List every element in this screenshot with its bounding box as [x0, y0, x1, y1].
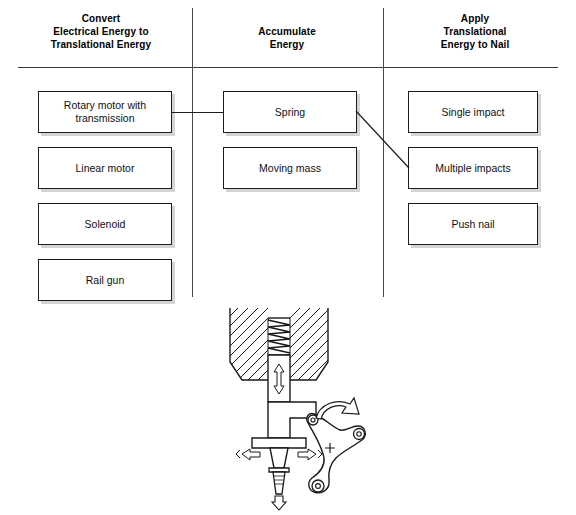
housing-hatched-block	[212, 306, 377, 396]
option-label: Rotary motor with transmission	[39, 99, 171, 125]
option-box-push-nail[interactable]: Push nail	[408, 203, 538, 245]
option-label: Moving mass	[259, 162, 321, 175]
option-box-moving-mass[interactable]: Moving mass	[223, 147, 357, 189]
option-box-single-impact[interactable]: Single impact	[408, 91, 538, 133]
nail	[269, 468, 289, 494]
column-header-apply-line-3: Energy to Nail	[392, 38, 558, 51]
column-header-apply-line-2: Translational	[392, 25, 558, 38]
column-header-convert-line-3: Translational Energy	[18, 38, 184, 51]
connector-spring-to-multiple-impacts	[355, 110, 411, 170]
column-header-accumulate-line-2: Energy	[203, 38, 371, 51]
option-box-spring[interactable]: Spring	[223, 91, 357, 133]
option-label: Single impact	[441, 106, 504, 119]
compression-spring	[268, 318, 290, 355]
column-divider-left	[192, 8, 193, 297]
header-separator-rule	[18, 67, 558, 68]
option-box-linear-motor[interactable]: Linear motor	[38, 147, 172, 189]
rotation-arrow-icon	[316, 398, 359, 419]
option-label: Spring	[275, 106, 305, 119]
option-box-rail-gun[interactable]: Rail gun	[38, 259, 172, 301]
option-box-multiple-impacts[interactable]: Multiple impacts	[408, 147, 538, 189]
column-header-accumulate: Accumulate Energy	[203, 25, 371, 51]
option-label: Solenoid	[85, 218, 126, 231]
option-label: Push nail	[451, 218, 494, 231]
column-header-convert-line-1: Convert	[18, 12, 184, 25]
column-header-apply: Apply Translational Energy to Nail	[392, 12, 558, 51]
option-label: Rail gun	[86, 274, 125, 287]
option-label: Multiple impacts	[435, 162, 510, 175]
column-header-apply-line-1: Apply	[392, 12, 558, 25]
option-label: Linear motor	[76, 162, 135, 175]
option-box-solenoid[interactable]: Solenoid	[38, 203, 172, 245]
option-box-rotary-motor[interactable]: Rotary motor with transmission	[38, 91, 172, 133]
connector-rotary-to-spring	[171, 112, 224, 113]
morphological-chart: Convert Electrical Energy to Translation…	[0, 0, 576, 515]
column-header-convert: Convert Electrical Energy to Translation…	[18, 12, 184, 51]
nail-drive-arrow-icon	[272, 496, 286, 510]
column-header-convert-line-2: Electrical Energy to	[18, 25, 184, 38]
spring-loaded-hammer-sketch	[212, 306, 377, 511]
column-header-accumulate-line-1: Accumulate	[203, 25, 371, 38]
